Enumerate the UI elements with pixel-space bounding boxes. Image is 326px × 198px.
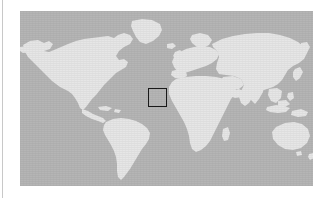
landmass-new-guinea bbox=[291, 109, 308, 117]
landmass-iceland bbox=[167, 43, 176, 49]
landmass-south-america bbox=[103, 118, 150, 180]
landmass-madagascar bbox=[222, 127, 230, 141]
landmass-borneo bbox=[278, 100, 290, 107]
landmass-greenland bbox=[131, 19, 162, 44]
landmass-japan bbox=[293, 67, 303, 81]
region-of-interest-box[interactable] bbox=[148, 88, 167, 107]
landmass-philippines bbox=[287, 92, 294, 101]
landmass-caribbean bbox=[98, 106, 112, 111]
world-map-figure[interactable] bbox=[20, 11, 313, 186]
landmass-africa bbox=[169, 76, 236, 152]
landmass-central-america bbox=[82, 109, 106, 123]
landmass-tasmania bbox=[296, 151, 302, 156]
landmass-new-zealand-south bbox=[308, 153, 313, 160]
landmass-indonesia bbox=[266, 105, 290, 113]
landmass-cuba bbox=[114, 109, 121, 113]
landmass-australia bbox=[272, 122, 310, 150]
landmass-europe bbox=[172, 46, 219, 73]
landmass-scandinavia bbox=[190, 33, 212, 48]
page-margin-rule bbox=[2, 0, 3, 198]
landmass-indochina bbox=[268, 88, 282, 103]
landmass-north-america bbox=[23, 33, 133, 110]
